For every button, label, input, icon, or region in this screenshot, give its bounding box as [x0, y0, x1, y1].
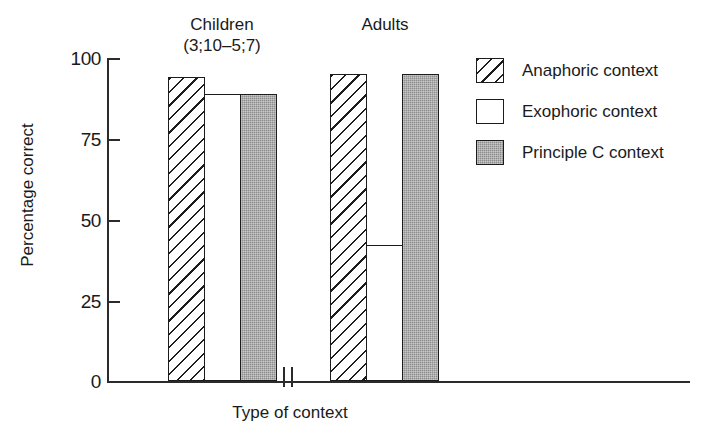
group-title-children: Children (3;10–5;7)	[142, 14, 302, 56]
axis-break-mark-left	[283, 367, 285, 387]
bar-adults-principle-c	[402, 74, 439, 381]
y-tick-label-0: 0	[91, 372, 101, 391]
bar-adults-anaphoric	[330, 74, 367, 381]
y-tick-mark-100	[109, 58, 120, 60]
chart-legend: Anaphoric context Exophoric context Prin…	[476, 50, 664, 173]
y-tick-mark-50	[109, 220, 120, 222]
bar-adults-exophoric	[366, 245, 403, 381]
bar-children-exophoric	[204, 94, 241, 381]
y-tick-group-100: 100	[0, 49, 101, 68]
legend-swatch-principle-c-icon	[476, 140, 504, 165]
legend-label-anaphoric: Anaphoric context	[522, 61, 658, 81]
bar-children-anaphoric	[168, 77, 205, 381]
y-tick-group-25: 25	[0, 292, 101, 311]
legend-item-principle-c: Principle C context	[476, 132, 664, 173]
y-tick-mark-75	[109, 139, 120, 141]
group-title-children-line1: Children	[142, 14, 302, 35]
y-tick-group-75: 75	[0, 130, 101, 149]
legend-item-exophoric: Exophoric context	[476, 91, 664, 132]
y-tick-group-50: 50	[0, 211, 101, 230]
y-tick-group-0: 0	[0, 372, 101, 391]
y-tick-mark-25	[109, 301, 120, 303]
legend-swatch-anaphoric-icon	[476, 58, 504, 83]
legend-label-exophoric: Exophoric context	[522, 102, 657, 122]
axis-break-mark-right	[291, 367, 293, 387]
group-title-adults-line1: Adults	[305, 14, 465, 35]
legend-label-principle-c: Principle C context	[522, 143, 664, 163]
chart-figure: Percentage correct 100 75 50 25 0 Childr…	[0, 0, 708, 438]
bar-children-principle-c	[240, 94, 277, 381]
x-axis-title: Type of context	[190, 403, 390, 423]
y-tick-label-100: 100	[70, 49, 101, 68]
y-tick-label-50: 50	[81, 211, 101, 230]
y-tick-label-25: 25	[81, 292, 101, 311]
x-axis-line	[107, 381, 690, 383]
group-title-children-line2: (3;10–5;7)	[142, 35, 302, 56]
legend-item-anaphoric: Anaphoric context	[476, 50, 664, 91]
group-title-adults: Adults	[305, 14, 465, 35]
legend-swatch-exophoric-icon	[476, 99, 504, 124]
y-tick-label-75: 75	[81, 130, 101, 149]
